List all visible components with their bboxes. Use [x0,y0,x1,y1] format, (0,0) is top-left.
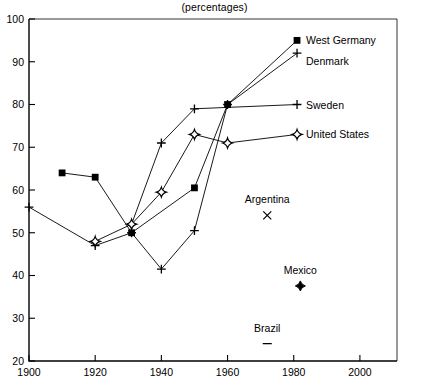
annotation-marker-mexico [295,281,305,291]
data-point-marker [25,203,34,212]
data-point-marker [294,37,301,44]
y-tick-label: 30 [12,312,24,324]
annotation-label-argentina: Argentina [245,193,290,205]
y-tick-label: 90 [12,56,24,68]
series-label-layer: West GermanyDenmarkSwedenUnited States [306,34,377,140]
chart-container: (percentages) 20304050607080901001900192… [0,0,429,389]
data-point-marker [59,170,66,177]
y-tick-label: 60 [12,184,24,196]
axis-layer: 2030405060708090100190019201940196019802… [6,13,397,378]
annotation-label-mexico: Mexico [284,264,317,276]
series-label-west-germany: West Germany [306,34,377,46]
y-tick-label: 70 [12,141,24,153]
y-tick-label: 80 [12,98,24,110]
data-point-marker [92,174,99,181]
data-point-marker [293,100,302,109]
x-tick-label: 1920 [84,366,108,378]
x-tick-label: 1940 [150,366,174,378]
data-point-marker [189,129,199,139]
annotation-layer: ArgentinaMexicoBrazil [245,193,317,343]
annotation-marker-argentina [263,211,271,219]
annotation-argentina: Argentina [245,193,290,219]
data-point-marker [293,49,302,58]
x-tick-label: 2000 [348,366,372,378]
series-label-denmark: Denmark [306,55,349,67]
x-tick-label: 1900 [17,366,41,378]
annotation-mexico: Mexico [284,264,317,291]
annotation-label-brazil: Brazil [254,322,280,334]
x-tick-label: 1960 [216,366,240,378]
y-tick-label: 100 [6,13,24,25]
y-tick-label: 20 [12,355,24,367]
series-denmark [25,49,302,274]
series-label-sweden: Sweden [306,99,344,111]
x-tick-label: 1980 [282,366,306,378]
annotation-brazil: Brazil [254,322,280,344]
data-point-marker [223,138,233,148]
y-tick-label: 50 [12,227,24,239]
data-point-marker [191,184,198,191]
series-layer [25,37,302,274]
series-sweden [127,100,301,229]
series-west-germany [59,37,301,236]
series-label-united-states: United States [306,128,369,140]
y-tick-label: 40 [12,269,24,281]
chart-plot-area: 2030405060708090100190019201940196019802… [0,0,429,389]
data-point-marker [292,129,302,139]
